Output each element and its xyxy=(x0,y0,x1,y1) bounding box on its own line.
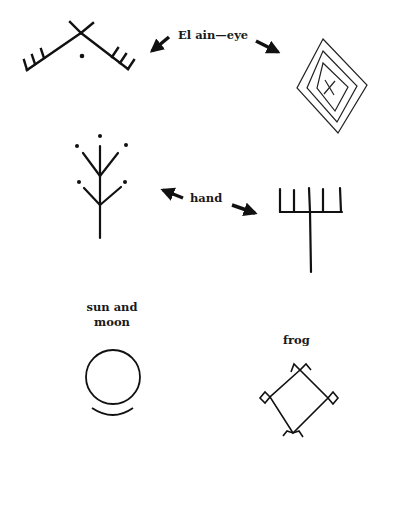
arrow-left-eye xyxy=(152,37,169,51)
hand-tree-dots xyxy=(75,134,128,184)
label-frog: frog xyxy=(283,333,310,348)
arrow-right-eye xyxy=(256,41,278,52)
eye-dot xyxy=(80,54,85,59)
arrow-right-hand xyxy=(232,205,255,213)
sun-circle xyxy=(86,350,140,404)
eye-chevron-symbol xyxy=(24,22,134,70)
label-sun-and-moon-line2: moon xyxy=(84,315,140,330)
moon-arc xyxy=(92,408,133,415)
label-eye: El ain—eye xyxy=(178,28,248,43)
hand-fork-symbol xyxy=(280,188,342,272)
arrow-left-hand xyxy=(163,190,183,198)
label-sun-and-moon: sun and moon xyxy=(84,300,140,330)
diagram-canvas xyxy=(0,0,394,517)
eye-diamond-symbol xyxy=(297,39,367,133)
label-sun-and-moon-line1: sun and xyxy=(84,300,140,315)
frog-symbol xyxy=(260,364,338,437)
label-hand: hand xyxy=(190,191,222,206)
hand-tree-symbol xyxy=(83,146,121,238)
